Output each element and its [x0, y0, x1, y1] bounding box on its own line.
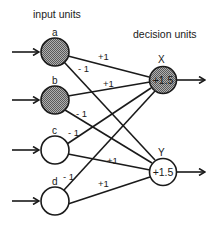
- edge-d-y: [68, 177, 150, 204]
- weight-labels: +1 - 1 +1 - 1 - 1 +1 - 1 +1: [63, 51, 118, 189]
- decision-unit-y: Y +1.5: [150, 147, 206, 186]
- input-unit-a-label: a: [52, 27, 58, 38]
- input-unit-c-circle: [41, 136, 69, 164]
- weight-d-x: - 1: [63, 171, 74, 182]
- decision-unit-x-label: X: [158, 54, 165, 65]
- input-unit-d-label: d: [52, 176, 58, 187]
- decision-unit-y-label: Y: [158, 147, 165, 158]
- input-arrows: [12, 52, 39, 201]
- weight-c-y: +1: [107, 155, 118, 166]
- input-unit-b-label: b: [52, 75, 58, 86]
- weight-c-x: - 1: [68, 127, 79, 138]
- decision-unit-y-threshold: +1.5: [153, 166, 174, 178]
- weight-a-x: +1: [98, 51, 109, 62]
- weight-a-y: - 1: [78, 63, 89, 74]
- decision-units-header: decision units: [133, 28, 197, 40]
- input-unit-d-circle: [41, 187, 69, 215]
- weight-d-y: +1: [98, 178, 109, 189]
- input-unit-b-circle: [41, 86, 69, 114]
- weight-b-y: - 1: [76, 108, 87, 119]
- decision-unit-x-threshold: +1.5: [153, 74, 174, 86]
- edge-d-x: [64, 91, 155, 190]
- input-unit-a: a: [41, 27, 69, 66]
- weight-b-x: +1: [103, 78, 114, 89]
- input-unit-b: b: [41, 75, 69, 114]
- input-units-header: input units: [33, 8, 81, 20]
- decision-unit-x: X +1.5: [150, 54, 206, 94]
- input-unit-a-circle: [41, 38, 69, 66]
- input-unit-c: c: [41, 125, 69, 164]
- input-unit-c-label: c: [52, 125, 57, 136]
- neural-network-diagram: input units decision units +1 - 1 +1 - 1…: [0, 0, 221, 227]
